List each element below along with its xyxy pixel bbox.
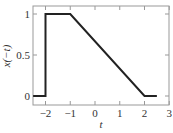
x-axis-label: t xyxy=(99,118,103,130)
y-tick-label: 0 xyxy=(25,90,31,102)
chart: −2−10123 00.51 t x(−t) xyxy=(0,0,172,133)
x-tick-label: 1 xyxy=(117,107,123,119)
y-tick-label: 0.5 xyxy=(16,49,30,61)
x-tick-label: 2 xyxy=(142,107,148,119)
y-axis-label: x(−t) xyxy=(0,44,13,68)
x-tick-labels: −2−10123 xyxy=(40,107,172,119)
y-tick-label: 1 xyxy=(25,8,31,20)
x-tick-label: −1 xyxy=(64,107,76,119)
y-tick-labels: 00.51 xyxy=(16,8,30,102)
x-tick-label: 3 xyxy=(167,107,173,119)
x-tick-label: 0 xyxy=(92,107,98,119)
series-line xyxy=(33,14,157,96)
plot-frame xyxy=(33,6,169,105)
ticks xyxy=(33,6,169,105)
x-tick-label: −2 xyxy=(40,107,52,119)
